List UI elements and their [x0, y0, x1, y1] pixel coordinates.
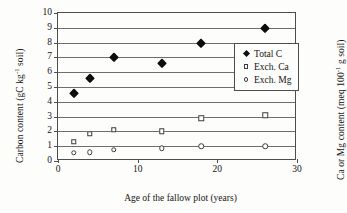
data-point: [109, 53, 118, 62]
y-axis-left-title-sup: -1: [13, 68, 20, 74]
y-axis-tick-label: 7: [47, 53, 52, 63]
y-axis-right-title: Ca or Mg content (meq 100-1 g soil): [336, 39, 346, 180]
x-axis-title-text: Age of the fallow plot (years): [110, 193, 237, 203]
y-axis-tick-label: 10: [43, 8, 53, 18]
x-axis-tick-label: 20: [213, 165, 223, 175]
data-point: [261, 23, 270, 32]
x-axis-tick-label: 0: [56, 165, 61, 175]
open-circle-icon: [240, 77, 252, 82]
data-point: [71, 150, 77, 156]
y-axis-right-title-tail: g soil): [336, 39, 346, 66]
data-point: [199, 115, 205, 121]
data-point: [87, 149, 93, 155]
y-axis-tick-label: 6: [47, 67, 52, 77]
chart-figure: Carbon content (gC kg-1 soil) Ca or Mg c…: [0, 0, 347, 213]
data-point: [111, 127, 117, 133]
x-axis-tick: [138, 159, 139, 163]
y-axis-tick-label: 5: [47, 82, 52, 92]
y-axis-tick-label: 8: [47, 38, 52, 48]
x-axis-tick: [297, 159, 298, 163]
filled-diamond-icon: [240, 51, 252, 56]
data-point: [69, 88, 78, 97]
y-axis-left-title: Carbon content (gC kg-1 soil): [15, 49, 25, 163]
y-axis-tick-label: 9: [47, 23, 52, 33]
legend-item-total-c[interactable]: Total C: [240, 47, 291, 60]
x-axis-tick: [58, 159, 59, 163]
y-axis-tick: [54, 72, 58, 73]
y-axis-left-title-text: Carbon content (gC kg: [15, 74, 25, 163]
y-axis-tick: [54, 28, 58, 29]
x-axis-tick-label: 10: [133, 165, 143, 175]
data-point: [262, 112, 268, 118]
gridline: [58, 117, 295, 118]
gridline: [58, 102, 295, 103]
gridline: [58, 131, 295, 132]
data-point: [111, 147, 117, 153]
y-axis-right-title-text: Ca or Mg content (meq 100: [336, 72, 346, 180]
legend-item-label: Exch. Ca: [252, 62, 289, 72]
data-point: [71, 139, 77, 145]
data-point: [159, 146, 165, 152]
y-axis-left-title-tail: soil): [15, 49, 25, 69]
data-point: [199, 143, 205, 149]
y-axis-tick: [54, 43, 58, 44]
data-point: [157, 59, 166, 68]
x-axis-tick: [217, 159, 218, 163]
y-axis-tick-label: 1: [47, 141, 52, 151]
gridline: [58, 146, 295, 147]
y-axis-tick-label: 3: [47, 112, 52, 122]
legend-item-label: Exch. Mg: [252, 75, 291, 85]
x-axis-tick-label: 30: [292, 165, 302, 175]
legend-item-label: Total C: [252, 49, 282, 59]
data-point: [262, 143, 268, 149]
y-axis-tick-label: 2: [47, 127, 52, 137]
y-axis-tick: [54, 102, 58, 103]
y-axis-tick-label: 4: [47, 97, 52, 107]
legend-item-exch-mg[interactable]: Exch. Mg: [240, 73, 291, 86]
data-point: [159, 129, 165, 135]
legend: Total CExch. CaExch. Mg: [234, 43, 299, 91]
y-axis-tick: [54, 131, 58, 132]
y-axis-tick-label: 0: [47, 156, 52, 166]
data-point: [85, 74, 94, 83]
y-axis-tick: [54, 146, 58, 147]
y-axis-right-title-sup: -1: [334, 67, 341, 73]
y-axis-tick: [54, 13, 58, 14]
y-axis-tick: [54, 87, 58, 88]
data-point: [197, 38, 206, 47]
open-square-icon: [240, 64, 252, 69]
data-point: [87, 131, 93, 137]
legend-item-exch-ca[interactable]: Exch. Ca: [240, 60, 291, 73]
y-axis-tick: [54, 57, 58, 58]
y-axis-tick: [54, 117, 58, 118]
x-axis-title: Age of the fallow plot (years): [0, 193, 347, 203]
